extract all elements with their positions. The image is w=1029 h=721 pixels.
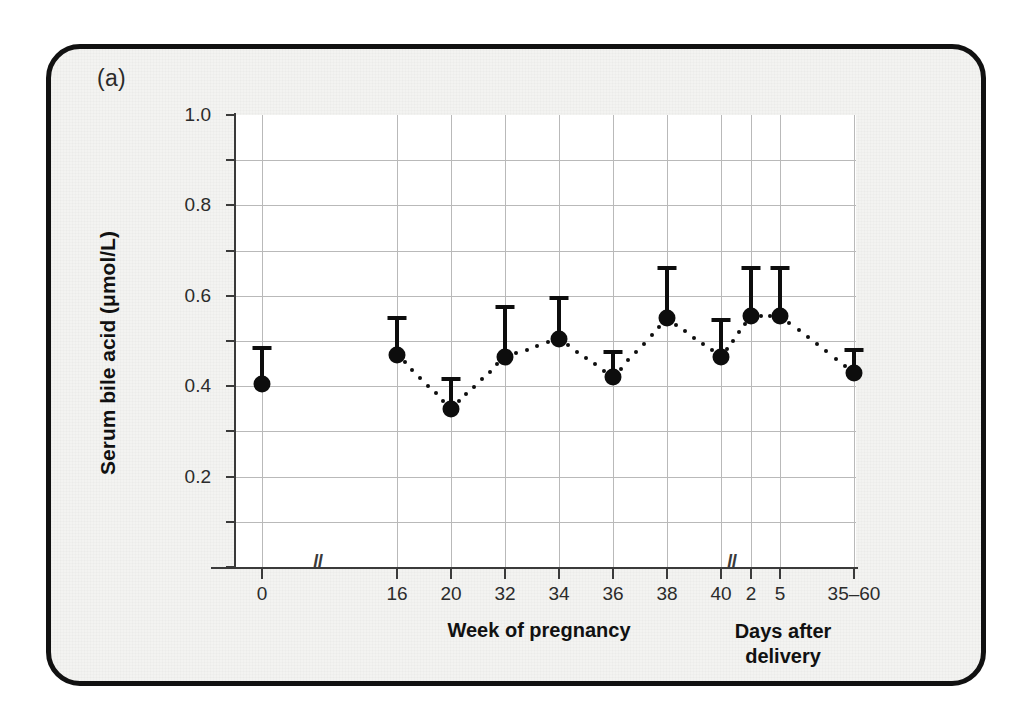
y-axis-tick <box>226 250 235 252</box>
y-axis-tick <box>226 385 235 387</box>
axis-break-mark: // <box>727 552 736 572</box>
y-axis-tick <box>226 340 235 342</box>
y-axis-tick <box>226 295 235 297</box>
x-axis-title-delivery-line1: Days after <box>735 620 832 642</box>
horizontal-gridline <box>235 296 856 297</box>
vertical-gridline <box>854 115 855 567</box>
vertical-gridline <box>667 115 668 567</box>
y-axis-tick <box>226 159 235 161</box>
x-axis-ticks <box>51 569 986 581</box>
vertical-gridline <box>780 115 781 567</box>
vertical-gridline <box>397 115 398 567</box>
y-axis-tick <box>226 476 235 478</box>
x-axis-tick <box>853 569 855 579</box>
x-axis-tick <box>612 569 614 579</box>
x-axis-tick-label: 5 <box>775 583 786 605</box>
y-axis-tick <box>226 521 235 523</box>
plot-area <box>235 115 856 567</box>
vertical-gridline <box>751 115 752 567</box>
x-axis-tick-label: 38 <box>656 583 677 605</box>
panel-label: (a) <box>97 65 126 92</box>
x-axis-tick <box>504 569 506 579</box>
vertical-gridline <box>505 115 506 567</box>
x-axis-tick <box>450 569 452 579</box>
vertical-gridline <box>559 115 560 567</box>
x-axis-tick-label: 0 <box>257 583 268 605</box>
horizontal-gridline <box>235 431 856 432</box>
horizontal-gridline <box>235 205 856 206</box>
x-axis-tick <box>750 569 752 579</box>
y-axis-tick-label: 0.8 <box>185 194 211 216</box>
x-axis-title-delivery: Days after delivery <box>699 619 867 669</box>
x-axis-tick-label: 32 <box>494 583 515 605</box>
x-axis-tick-label: 35–60 <box>828 583 881 605</box>
horizontal-gridline <box>235 477 856 478</box>
horizontal-gridline <box>235 251 856 252</box>
vertical-gridline <box>262 115 263 567</box>
horizontal-gridline <box>235 522 856 523</box>
horizontal-gridline <box>235 160 856 161</box>
y-axis-tick <box>226 430 235 432</box>
x-axis-tick <box>720 569 722 579</box>
x-axis-title-delivery-line2: delivery <box>745 645 821 667</box>
x-axis-tick <box>779 569 781 579</box>
y-axis-tick-label: 1.0 <box>185 104 211 126</box>
y-axis-title: Serum bile acid (μmol/L) <box>96 188 120 518</box>
x-axis-tick-label: 36 <box>602 583 623 605</box>
x-axis-title-pregnancy: Week of pregnancy <box>429 619 649 642</box>
y-axis-tick-label: 0.4 <box>185 375 211 397</box>
y-axis-tick <box>226 114 235 116</box>
y-axis-tick <box>226 204 235 206</box>
x-axis-tick <box>261 569 263 579</box>
x-axis-tick-label: 20 <box>440 583 461 605</box>
vertical-gridline <box>613 115 614 567</box>
x-axis-tick <box>666 569 668 579</box>
axis-break-mark: // <box>313 552 322 572</box>
vertical-gridline <box>451 115 452 567</box>
x-axis-tick-label: 34 <box>548 583 569 605</box>
vertical-gridline <box>721 115 722 567</box>
y-axis-tick <box>226 566 235 568</box>
horizontal-gridline <box>235 341 856 342</box>
figure-card: (a) 0.20.40.60.81.0 0162032343638402535–… <box>46 44 986 686</box>
x-axis-tick <box>558 569 560 579</box>
x-axis-tick <box>396 569 398 579</box>
x-axis-tick-label: 16 <box>386 583 407 605</box>
x-axis-tick-label: 2 <box>746 583 757 605</box>
x-axis-tick-label: 40 <box>710 583 731 605</box>
horizontal-gridline <box>235 386 856 387</box>
y-axis-tick-label: 0.6 <box>185 285 211 307</box>
x-axis-tick-labels: 0162032343638402535–60 <box>51 583 986 613</box>
y-axis-tick-label: 0.2 <box>185 466 211 488</box>
